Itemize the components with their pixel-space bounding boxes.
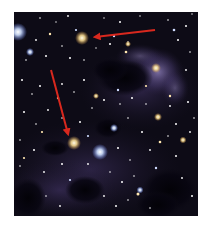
star-field-image [14, 12, 198, 216]
astronomy-image [14, 12, 198, 216]
